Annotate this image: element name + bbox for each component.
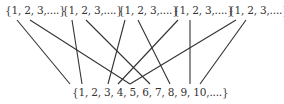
top-set-5: {1, 2, 3,....} bbox=[228, 4, 284, 16]
top-set-3: {1, 2, 3,....} bbox=[118, 4, 179, 16]
bottom-set: {1, 2, 3, 4, 5, 6, 7, 8, 9, 10,....} bbox=[72, 86, 228, 98]
mapping-line bbox=[118, 20, 178, 84]
top-set-4: {1, 2, 3,....} bbox=[173, 4, 234, 16]
mapping-line bbox=[86, 20, 150, 84]
top-set-1: {1, 2, 3,....} bbox=[5, 4, 66, 16]
mapping-line bbox=[108, 20, 125, 84]
mapping-line bbox=[130, 20, 236, 84]
mapping-line bbox=[17, 20, 70, 84]
mapping-line bbox=[200, 20, 246, 84]
top-set-2: {1, 2, 3,....} bbox=[62, 4, 123, 16]
mapping-line bbox=[138, 20, 170, 84]
